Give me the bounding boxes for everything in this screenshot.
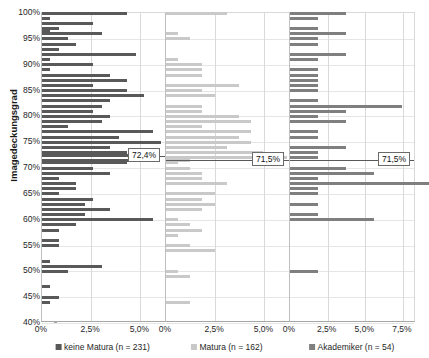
y-axis-tick-65: 65% bbox=[23, 188, 40, 198]
bar bbox=[166, 301, 190, 304]
x-axis-tick: 0% bbox=[159, 324, 171, 334]
bar bbox=[42, 58, 50, 61]
bar bbox=[166, 125, 202, 128]
bar bbox=[290, 74, 318, 77]
y-axis-tick-80: 80% bbox=[23, 110, 40, 120]
bar bbox=[166, 63, 202, 66]
bar bbox=[42, 161, 127, 164]
bar bbox=[42, 260, 50, 263]
bar bbox=[166, 136, 239, 139]
bar bbox=[42, 74, 110, 77]
bar bbox=[42, 167, 93, 170]
panel-2 bbox=[165, 12, 289, 322]
bar bbox=[42, 213, 85, 216]
bar bbox=[166, 110, 202, 113]
bar bbox=[166, 249, 215, 252]
y-axis-tick-60: 60% bbox=[23, 214, 40, 224]
bar bbox=[166, 89, 202, 92]
x-axis-tick: 5,0% bbox=[355, 324, 374, 334]
bar bbox=[166, 223, 190, 226]
bar bbox=[42, 296, 59, 299]
horizontal-gridline bbox=[290, 65, 414, 66]
panel-3 bbox=[289, 12, 415, 322]
bar bbox=[290, 115, 318, 118]
bar bbox=[42, 285, 50, 288]
bar bbox=[290, 203, 318, 206]
y-axis-tick-95: 95% bbox=[23, 33, 40, 43]
bar bbox=[42, 48, 59, 51]
legend-item-1[interactable]: keine Matura (n = 231) bbox=[55, 342, 150, 352]
bar bbox=[42, 12, 127, 15]
bar bbox=[42, 115, 110, 118]
bar bbox=[290, 172, 374, 175]
bar bbox=[290, 68, 318, 71]
bar bbox=[42, 203, 85, 206]
bar bbox=[42, 146, 110, 149]
horizontal-gridline bbox=[42, 246, 165, 247]
bar bbox=[42, 229, 59, 232]
bar bbox=[166, 182, 227, 185]
bar bbox=[166, 58, 178, 61]
bar bbox=[290, 213, 318, 216]
x-axis-tick: 0% bbox=[35, 324, 47, 334]
x-axis-tick: 2,5% bbox=[317, 324, 336, 334]
bar bbox=[42, 182, 76, 185]
bar bbox=[290, 187, 318, 190]
bar bbox=[290, 17, 318, 20]
bar bbox=[166, 270, 178, 273]
chart-legend: keine Matura (n = 231)Matura (n = 162)Ak… bbox=[0, 342, 418, 356]
bar bbox=[166, 32, 178, 35]
bar bbox=[42, 141, 161, 144]
bar bbox=[166, 84, 239, 87]
y-axis-tick-50: 50% bbox=[23, 265, 40, 275]
bar bbox=[42, 79, 127, 82]
horizontal-gridline bbox=[166, 297, 289, 298]
legend-item-3[interactable]: Akademiker (n = 54) bbox=[309, 342, 395, 352]
bar bbox=[290, 12, 346, 15]
bar bbox=[166, 68, 202, 71]
bar bbox=[166, 130, 251, 133]
bar bbox=[166, 234, 178, 237]
bar bbox=[166, 167, 190, 170]
legend-item-2[interactable]: Matura (n = 162) bbox=[190, 342, 262, 352]
bar bbox=[166, 208, 202, 211]
bar bbox=[42, 43, 76, 46]
bar bbox=[166, 229, 202, 232]
bar bbox=[166, 275, 190, 278]
y-axis-tick-70: 70% bbox=[23, 162, 40, 172]
x-axis-tick: 2,5% bbox=[205, 324, 224, 334]
bar bbox=[166, 141, 251, 144]
horizontal-gridline bbox=[166, 271, 289, 272]
legend-label: Akademiker (n = 54) bbox=[318, 342, 395, 352]
bar bbox=[290, 58, 318, 61]
bar bbox=[290, 156, 318, 159]
bar bbox=[42, 94, 144, 97]
y-axis-tick-85: 85% bbox=[23, 85, 40, 95]
mean-value-label: 72,4% bbox=[128, 148, 160, 162]
legend-swatch-icon bbox=[55, 344, 61, 350]
bar bbox=[42, 239, 59, 242]
mean-value-label: 71,5% bbox=[378, 152, 410, 166]
bar bbox=[166, 244, 190, 247]
bar bbox=[42, 223, 76, 226]
y-axis-tick-75: 75% bbox=[23, 136, 40, 146]
bar bbox=[42, 37, 68, 40]
mean-value-label: 71,5% bbox=[252, 152, 284, 166]
y-axis-tick-labels: 40%45%50%55%60%65%70%75%80%85%90%95%100% bbox=[14, 12, 40, 322]
bar bbox=[290, 110, 346, 113]
bar bbox=[290, 120, 346, 123]
bar bbox=[42, 187, 76, 190]
bar bbox=[166, 37, 190, 40]
bar bbox=[290, 53, 346, 56]
bar bbox=[42, 22, 93, 25]
bar bbox=[42, 120, 102, 123]
bar bbox=[290, 79, 318, 82]
bar bbox=[290, 89, 318, 92]
bar bbox=[166, 192, 215, 195]
legend-label: keine Matura (n = 231) bbox=[64, 342, 150, 352]
chart-title bbox=[0, 0, 418, 9]
bar bbox=[42, 99, 110, 102]
bar bbox=[166, 115, 239, 118]
x-axis-tick: 0% bbox=[283, 324, 295, 334]
